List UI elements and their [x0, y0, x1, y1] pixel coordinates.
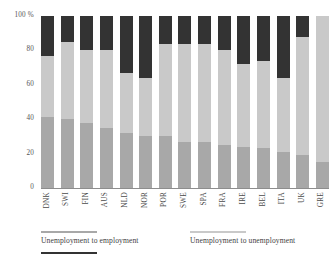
bar-segment [296, 37, 309, 156]
x-axis-label: ITA [279, 192, 286, 204]
x-axis-label: BEL [260, 192, 267, 206]
bar-segment [277, 16, 290, 78]
legend-swatch-icon [41, 252, 97, 254]
bar-segment [237, 16, 250, 64]
y-tick-label: 20 [26, 150, 34, 157]
bar-segment [277, 78, 290, 152]
bar-segment [198, 142, 211, 188]
x-axis-label: NLD [122, 192, 129, 208]
legend-label: Unemployment to employment [41, 236, 139, 245]
bar-column [218, 16, 231, 188]
x-label-slot: ITA [277, 189, 290, 231]
bar-column [80, 16, 93, 188]
x-axis-label: SWI [63, 192, 70, 206]
bar-column [277, 16, 290, 188]
bar-column [139, 16, 152, 188]
bar-segment [120, 73, 133, 133]
legend-swatch-icon [190, 231, 246, 233]
bar-segment [159, 16, 172, 44]
x-axis-label: GRE [319, 192, 326, 207]
bar-segment [100, 50, 113, 127]
bar-column [178, 16, 191, 188]
bar-segment [139, 136, 152, 188]
bar-column [120, 16, 133, 188]
bar-segment [80, 50, 93, 122]
x-axis-label: IRE [240, 192, 247, 204]
bar-segment [316, 162, 329, 188]
x-axis-label: UK [299, 192, 306, 203]
bar-column [61, 16, 74, 188]
bar-segment [257, 61, 270, 149]
y-tick-label: 100 % [14, 12, 34, 19]
bar-segment [218, 50, 231, 145]
bar-column [316, 16, 329, 188]
x-label-slot: NOR [139, 189, 152, 231]
legend-item-unemployment-to-unemployment: Unemployment to unemployment [190, 231, 295, 245]
bar-segment [178, 16, 191, 44]
x-label-slot: AUS [100, 189, 113, 231]
x-axis-labels: DNKSWIFINAUSNLDNORPORSWESPAFRAIREBELITAU… [41, 189, 329, 231]
y-tick-label: 40 [26, 116, 34, 123]
bar-segment [159, 44, 172, 137]
bar-segment [139, 16, 152, 78]
bar-segment [218, 145, 231, 188]
bar-segment [237, 147, 250, 188]
bar-segment [80, 16, 93, 50]
bar-segment [257, 148, 270, 188]
bar-segment [296, 155, 309, 188]
bar-column [159, 16, 172, 188]
bar-segment [80, 123, 93, 188]
legend-swatch-icon [41, 231, 97, 233]
bar-segment [237, 64, 250, 147]
bar-segment [296, 16, 309, 37]
y-tick-label: 80 [26, 47, 34, 54]
x-axis-label: NOR [142, 192, 149, 208]
bar-segment [178, 142, 191, 188]
x-axis-label: AUS [103, 192, 110, 207]
bar-segment [61, 119, 74, 188]
x-axis-label: DNK [44, 192, 51, 208]
bar-segment [41, 16, 54, 56]
bar-segment [316, 16, 329, 162]
bar-group [41, 16, 329, 188]
bar-segment [198, 16, 211, 44]
legend-label: Unemployment to unemployment [190, 236, 295, 245]
x-label-slot: SWE [178, 189, 191, 231]
bar-segment [100, 128, 113, 188]
bar-column [257, 16, 270, 188]
x-label-slot: DNK [41, 189, 54, 231]
bar-segment [120, 133, 133, 188]
x-label-slot: SWI [61, 189, 74, 231]
x-axis-label: FIN [83, 192, 90, 204]
bar-segment [41, 117, 54, 188]
bar-segment [198, 44, 211, 142]
x-label-slot: BEL [257, 189, 270, 231]
x-axis-label: POR [162, 192, 169, 207]
x-axis-label: FRA [221, 192, 228, 207]
x-axis-label: SPA [201, 192, 208, 205]
bar-segment [61, 16, 74, 42]
x-label-slot: NLD [120, 189, 133, 231]
x-label-slot: POR [159, 189, 172, 231]
x-label-slot: IRE [237, 189, 250, 231]
bar-column [100, 16, 113, 188]
bar-segment [61, 42, 74, 119]
x-axis-label: SWE [181, 192, 188, 208]
y-tick-label: 60 [26, 81, 34, 88]
bar-segment [159, 136, 172, 188]
bar-segment [41, 56, 54, 118]
bar-segment [218, 16, 231, 50]
stacked-bar-chart: 100 % 80 60 40 20 0 DNKSWIFINAUSNLDNORPO… [0, 0, 333, 263]
bar-column [296, 16, 309, 188]
bar-segment [178, 44, 191, 142]
x-label-slot: SPA [198, 189, 211, 231]
bar-segment [277, 152, 290, 188]
bar-segment [100, 16, 113, 50]
x-label-slot: FRA [218, 189, 231, 231]
x-label-slot: FIN [80, 189, 93, 231]
legend-item-third [41, 252, 97, 257]
bar-segment [139, 78, 152, 136]
bar-column [41, 16, 54, 188]
y-axis: 100 % 80 60 40 20 0 [0, 0, 41, 200]
plot-area [41, 16, 329, 188]
